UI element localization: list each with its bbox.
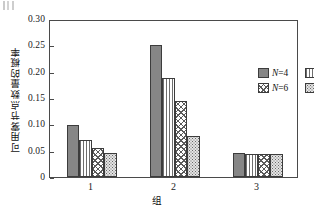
- legend-label: N=6: [272, 83, 288, 93]
- bar-chart-figure: 可用雾节点数量的概率 00.050.100.150.200.250.30 N=4…: [0, 0, 314, 215]
- legend-entry-N10: N=10: [305, 83, 314, 93]
- y-axis-tick-label: 0.20: [0, 67, 45, 77]
- x-axis-tick-label: 2: [159, 181, 189, 192]
- legend-swatch-solid: [258, 68, 269, 78]
- bar-group3-N6: [258, 154, 271, 177]
- bar-group3-N4: [233, 153, 246, 177]
- y-axis-tick-mark: [50, 178, 54, 179]
- bar-group3-N10: [270, 154, 283, 177]
- y-axis-tick-label: 0.15: [0, 93, 45, 103]
- bar-group1-N10: [104, 153, 117, 177]
- bar-group2-N10: [187, 136, 200, 177]
- bar-group3-N5: [245, 154, 258, 177]
- chart-legend: N=4N=5N=6N=10: [258, 68, 314, 93]
- bar-group2-N4: [150, 45, 163, 177]
- y-axis-tick-label: 0.05: [0, 146, 45, 156]
- plot-area: N=4N=5N=6N=10: [49, 20, 298, 178]
- y-axis-tick-label: 0.10: [0, 119, 45, 129]
- y-axis-tick-label: 0: [0, 172, 45, 182]
- bar-group2-N6: [175, 101, 188, 177]
- legend-entry-N6: N=6: [258, 83, 298, 93]
- bar-group1-N5: [79, 140, 92, 177]
- bar-group1-N4: [67, 125, 80, 177]
- y-axis-tick-label: 0.30: [0, 14, 45, 24]
- x-axis-tick-label: 1: [76, 181, 106, 192]
- legend-swatch-dot: [305, 83, 314, 93]
- legend-swatch-vstripe: [305, 68, 314, 78]
- bars-layer: [50, 21, 297, 177]
- bar-group2-N5: [162, 78, 175, 177]
- x-axis-label: 组: [0, 193, 314, 207]
- y-axis-tick-label: 0.25: [0, 40, 45, 50]
- legend-label: N=4: [272, 68, 288, 78]
- x-axis-tick-label: 3: [242, 181, 272, 192]
- bar-group1-N6: [92, 148, 105, 177]
- legend-entry-N5: N=5: [305, 68, 314, 78]
- legend-swatch-cross: [258, 83, 269, 93]
- legend-entry-N4: N=4: [258, 68, 298, 78]
